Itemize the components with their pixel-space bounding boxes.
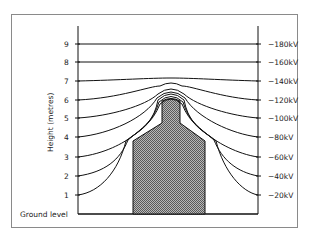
building-shape xyxy=(133,99,205,215)
svg-text:5: 5 xyxy=(64,114,69,123)
svg-text:4: 4 xyxy=(64,133,69,142)
svg-text:−80kV: −80kV xyxy=(268,133,294,142)
svg-text:−160kV: −160kV xyxy=(268,58,299,67)
y-axis-label: Height (metres) xyxy=(46,93,55,152)
svg-text:8: 8 xyxy=(64,58,69,67)
svg-text:7: 7 xyxy=(64,77,69,86)
svg-text:−20kV: −20kV xyxy=(268,191,294,200)
svg-text:2: 2 xyxy=(64,172,69,181)
ground-level-label: Ground level xyxy=(20,210,68,219)
svg-text:−60kV: −60kV xyxy=(268,153,294,162)
svg-text:3: 3 xyxy=(64,153,69,162)
right-voltage-labels: −180kV −160kV −140kV −120kV −100kV −80kV… xyxy=(268,40,299,200)
svg-text:−180kV: −180kV xyxy=(268,40,299,49)
svg-text:−140kV: −140kV xyxy=(268,77,299,86)
left-tick-labels: 9 8 7 6 5 4 3 2 1 xyxy=(64,40,69,200)
svg-text:−40kV: −40kV xyxy=(268,172,294,181)
svg-text:1: 1 xyxy=(64,191,69,200)
svg-text:−100kV: −100kV xyxy=(268,114,299,123)
svg-text:−120kV: −120kV xyxy=(268,96,299,105)
equipotential-diagram: 9 8 7 6 5 4 3 2 1 −180kV −160kV −140kV −… xyxy=(0,0,320,238)
svg-text:9: 9 xyxy=(64,40,69,49)
svg-text:6: 6 xyxy=(64,96,69,105)
